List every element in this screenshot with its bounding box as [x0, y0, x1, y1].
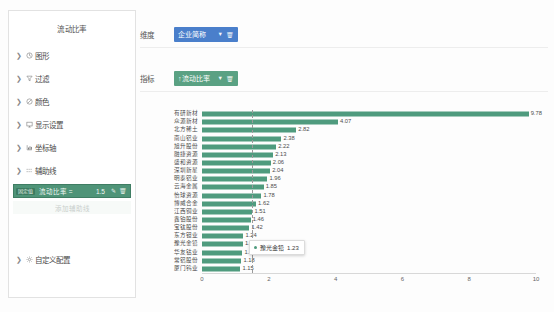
pencil-icon[interactable]: ✎	[111, 188, 116, 194]
display-icon	[24, 121, 35, 128]
sidebar-item-axis[interactable]: ❯ 坐标轴	[9, 136, 135, 159]
bar[interactable]	[202, 177, 267, 182]
bar-value-label: 2.22	[278, 144, 289, 150]
sidebar-item-color[interactable]: ❯ 颜色	[9, 90, 135, 113]
sidebar-item-label: 显示设置	[35, 119, 63, 130]
guideline-rule-row[interactable]: 固定值 流动比率 = 1.5 ✎ 🗑	[13, 184, 131, 198]
bar-value-label: 1.42	[251, 225, 262, 231]
bar-value-label: 2.04	[272, 168, 283, 174]
bar[interactable]	[202, 258, 241, 263]
sidebar-item-label: 颜色	[35, 96, 49, 107]
config-panel: 流动比率 ❯ 图形 ❯ 过滤 ❯ 颜色	[8, 10, 136, 298]
dimension-chip-label: 企业简称	[178, 29, 213, 39]
bar[interactable]	[202, 120, 338, 125]
chevron-right-icon: ❯	[16, 75, 24, 82]
chevron-right-icon: ❯	[16, 144, 24, 151]
bar[interactable]	[202, 160, 271, 165]
bar-value-label: 1.46	[253, 217, 264, 223]
main-area: 维度 企业简称 ▼ 🗑 指标 ↑流动比率 ▼ 🗑 有研新材众源新材北方稀土南山铝…	[140, 10, 548, 298]
sidebar-item-custom-config[interactable]: ❯ 自定义配置	[9, 248, 135, 271]
chevron-down-icon[interactable]: ▼	[218, 75, 223, 81]
x-tick-label: 6	[401, 273, 404, 282]
bar[interactable]	[202, 218, 251, 223]
bar-value-label: 1.78	[263, 193, 274, 199]
bar-value-label: 4.07	[340, 119, 351, 125]
sidebar-item-label: 自定义配置	[35, 254, 70, 265]
bar[interactable]	[202, 169, 270, 174]
x-tick-label: 0	[200, 273, 203, 282]
category-label: 南山铝业	[174, 136, 198, 142]
sidebar-item-filter[interactable]: ❯ 过滤	[9, 67, 135, 90]
dimension-row: 维度 企业简称 ▼ 🗑	[140, 26, 548, 42]
filter-icon	[24, 75, 35, 82]
category-label: 常铝股份	[174, 258, 198, 264]
bar-value-label: 2.38	[283, 136, 294, 142]
category-label: 宝钛股份	[174, 225, 198, 231]
metric-chip[interactable]: ↑流动比率 ▼ 🗑	[174, 71, 238, 86]
category-label: 云海金属	[174, 185, 198, 191]
bar[interactable]	[202, 266, 240, 271]
sidebar-item-label: 坐标轴	[35, 142, 56, 153]
category-label: 盛和资源	[174, 160, 198, 166]
category-axis-labels: 有研新材众源新材北方稀土南山铝业旭升股份融捷资源盛和资源深圳新星明泰铝业云海金属…	[140, 110, 200, 273]
trash-icon[interactable]: 🗑	[119, 188, 127, 194]
rule-badge: 固定值	[16, 188, 35, 195]
trash-icon[interactable]: 🗑	[226, 31, 234, 38]
bar-value-label: 2.13	[275, 152, 286, 158]
bar[interactable]	[202, 242, 243, 247]
category-label: 东方钽业	[174, 234, 198, 240]
dimension-label: 维度	[140, 29, 174, 40]
bar-value-label: 2.82	[298, 127, 309, 133]
bar[interactable]	[202, 201, 256, 206]
bar[interactable]	[202, 112, 529, 117]
bar[interactable]	[202, 136, 281, 141]
bar[interactable]	[202, 250, 242, 255]
tooltip-color-dot	[254, 246, 257, 249]
category-label: 融捷资源	[174, 152, 198, 158]
bar[interactable]	[202, 144, 276, 149]
bar-value-label: 1.85	[266, 185, 277, 191]
chevron-right-icon: ❯	[16, 98, 24, 105]
bar[interactable]	[202, 185, 264, 190]
bar-value-label: 1.24	[245, 233, 256, 239]
chevron-down-icon[interactable]: ▼	[218, 31, 223, 37]
panel-title: 流动比率	[9, 23, 135, 34]
bar-value-label: 1.51	[254, 209, 265, 215]
bar[interactable]	[202, 152, 273, 157]
category-label: 博威合金	[174, 201, 198, 207]
bar[interactable]	[202, 234, 243, 239]
chevron-down-icon: ❯	[16, 167, 24, 174]
sidebar-item-guideline[interactable]: ❯ 辅助线	[9, 159, 135, 182]
guideline-icon	[24, 167, 35, 174]
category-label: 旭升股份	[174, 144, 198, 150]
bi-chart-editor: 流动比率 ❯ 图形 ❯ 过滤 ❯ 颜色	[0, 0, 554, 312]
rule-tools: ✎ 🗑	[111, 188, 130, 194]
tooltip-value: 1.23	[287, 245, 299, 251]
tooltip-name: 豫光金铅	[260, 243, 284, 252]
category-label: 众源新材	[174, 119, 198, 125]
sidebar-item-display-settings[interactable]: ❯ 显示设置	[9, 113, 135, 136]
trash-icon[interactable]: 🗑	[226, 75, 234, 82]
config-section-list: ❯ 图形 ❯ 过滤 ❯ 颜色 ❯	[9, 44, 135, 271]
divider	[140, 47, 548, 48]
metric-chip-label: ↑流动比率	[178, 73, 213, 83]
panel-spacer	[9, 214, 135, 248]
chevron-right-icon: ❯	[16, 256, 24, 263]
rule-expression: 流动比率 =	[35, 186, 96, 196]
sidebar-item-label: 图形	[35, 50, 49, 61]
add-guideline-button[interactable]: 添加辅助线	[13, 201, 131, 214]
category-label: 北方稀土	[174, 128, 198, 134]
bar[interactable]	[202, 209, 252, 214]
category-label: 深圳新星	[174, 168, 198, 174]
sidebar-item-label: 过滤	[35, 73, 49, 84]
dimension-chip[interactable]: 企业简称 ▼ 🗑	[174, 27, 238, 42]
x-tick-label: 4	[334, 273, 337, 282]
rule-value: 1.5	[96, 188, 111, 195]
bar-value-label: 2.06	[273, 160, 284, 166]
bar[interactable]	[202, 226, 249, 231]
color-icon	[24, 98, 35, 105]
sidebar-item-graphics[interactable]: ❯ 图形	[9, 44, 135, 67]
bar[interactable]	[202, 128, 296, 133]
x-tick-label: 10	[533, 273, 540, 282]
metric-label: 指标	[140, 73, 174, 84]
